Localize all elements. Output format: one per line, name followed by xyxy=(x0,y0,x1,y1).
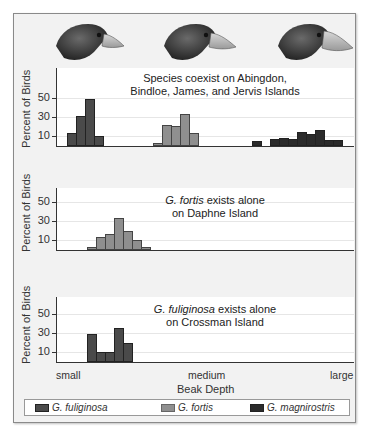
legend-item-magnirostris: G. magnirostris xyxy=(250,402,335,413)
histogram-bar xyxy=(141,247,151,250)
legend-swatch-magnirostris xyxy=(250,404,264,412)
y-tick xyxy=(52,136,56,137)
x-axis-label: Beak Depth xyxy=(177,383,234,395)
x-axis-line xyxy=(56,362,354,363)
legend-item-fortis: G. fortis xyxy=(161,402,213,413)
y-tick xyxy=(52,117,56,118)
x-category-large: large xyxy=(330,369,353,381)
finch-head-small-icon xyxy=(56,24,124,60)
finch-head-large-icon xyxy=(278,24,353,60)
legend-item-fuliginosa: G. fuliginosa xyxy=(35,402,108,413)
histogram-bar xyxy=(333,140,343,146)
x-axis-line xyxy=(56,250,354,251)
y-tick xyxy=(52,240,56,241)
histogram-bar xyxy=(123,343,133,362)
y-axis-label: Percent of Birds xyxy=(20,174,32,252)
legend-swatch-fortis xyxy=(161,404,175,412)
finch-illustrations xyxy=(0,0,370,62)
legend-swatch-fuliginosa xyxy=(35,404,49,412)
panel-title: G. fortis exists aloneon Daphne Island xyxy=(100,194,330,220)
y-axis-line xyxy=(56,188,57,250)
y-tick xyxy=(52,333,56,334)
y-tick xyxy=(52,98,56,99)
gridline xyxy=(56,117,354,118)
gridline xyxy=(56,221,354,222)
histogram-bar xyxy=(189,133,199,146)
y-axis-line xyxy=(56,297,57,362)
y-tick xyxy=(52,202,56,203)
legend: G. fuliginosa G. fortis G. magnirostris xyxy=(24,399,350,416)
gridline xyxy=(56,333,354,334)
legend-label-magnirostris: G. magnirostris xyxy=(267,402,335,413)
legend-label-fortis: G. fortis xyxy=(178,402,213,413)
finch-head-medium-icon xyxy=(164,24,236,60)
x-category-medium: medium xyxy=(188,369,225,381)
histogram-bar xyxy=(252,141,262,146)
x-axis-line xyxy=(56,146,354,147)
y-tick xyxy=(52,221,56,222)
legend-label-fuliginosa: G. fuliginosa xyxy=(52,402,108,413)
panel-title: G. fuliginosa exists aloneon Crossman Is… xyxy=(100,303,330,329)
histogram-bar xyxy=(94,136,104,146)
y-axis-line xyxy=(56,68,57,146)
panel-title: Species coexist on Abingdon,Bindloe, Jam… xyxy=(100,72,330,98)
y-axis-label: Percent of Birds xyxy=(20,286,32,364)
species-name: G. fuliginosa xyxy=(154,303,215,315)
x-category-small: small xyxy=(56,369,81,381)
y-axis-label: Percent of Birds xyxy=(20,70,32,148)
species-name: G. fortis xyxy=(165,194,204,206)
y-tick xyxy=(52,314,56,315)
y-tick xyxy=(52,352,56,353)
